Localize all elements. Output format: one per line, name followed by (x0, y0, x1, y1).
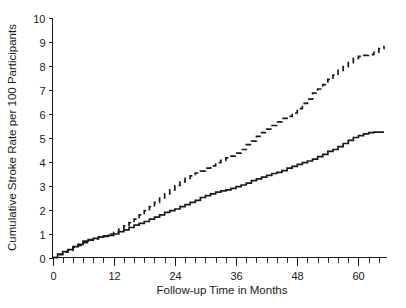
x-axis-major-ticks (54, 258, 359, 266)
y-tick-label: 2 (39, 205, 45, 217)
y-axis-tick-labels: 012345678910 (33, 13, 45, 265)
y-tick-label: 4 (39, 157, 45, 169)
x-axis-minor-ticks (64, 258, 380, 263)
cumulative-stroke-rate-line-chart: 012345678910 01224364860 Cumulative Stro… (0, 0, 406, 308)
series-line-solid (53, 132, 384, 257)
x-tick-label: 24 (169, 270, 181, 282)
y-tick-label: 7 (39, 85, 45, 97)
x-axis-tick-labels: 01224364860 (50, 270, 364, 282)
x-axis-title: Follow-up Time in Months (156, 284, 287, 296)
y-tick-label: 10 (33, 13, 45, 25)
stroke-rate-chart-figure: 012345678910 01224364860 Cumulative Stro… (0, 0, 406, 308)
y-tick-label: 3 (39, 181, 45, 193)
y-tick-label: 6 (39, 109, 45, 121)
x-tick-label: 12 (108, 270, 120, 282)
chart-series-group (53, 46, 384, 258)
y-axis-ticks (49, 19, 53, 259)
y-tick-label: 1 (39, 229, 45, 241)
x-tick-label: 48 (291, 270, 303, 282)
x-tick-label: 0 (50, 270, 56, 282)
x-tick-label: 36 (230, 270, 242, 282)
y-tick-label: 9 (39, 37, 45, 49)
x-tick-label: 60 (352, 270, 364, 282)
series-line-dashed (53, 46, 384, 258)
y-tick-label: 8 (39, 61, 45, 73)
y-axis-title: Cumulative Stroke Rate per 100 Participa… (6, 24, 18, 251)
y-tick-label: 0 (39, 253, 45, 265)
y-tick-label: 5 (39, 133, 45, 145)
